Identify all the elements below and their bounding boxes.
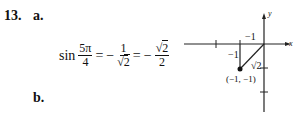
x-axis-label: x [289, 39, 293, 48]
vertical-leg-label: −1 [228, 49, 239, 60]
hypotenuse-label: √2 [251, 60, 262, 71]
y-axis-arrow-icon [262, 13, 266, 19]
point-label: (−1, −1) [226, 74, 256, 84]
unit-circle-graph [0, 0, 295, 114]
point-marker [238, 67, 243, 72]
horizontal-leg-label: −1 [245, 31, 256, 42]
y-axis-label: y [268, 9, 272, 18]
